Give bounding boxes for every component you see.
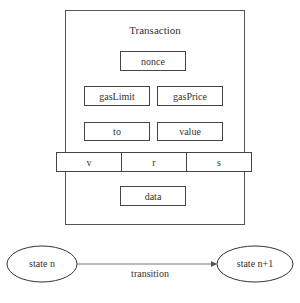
transition-label: transition: [115, 268, 185, 279]
state-n1-label: state n+1: [220, 258, 290, 269]
state-n-label: state n: [12, 258, 72, 269]
